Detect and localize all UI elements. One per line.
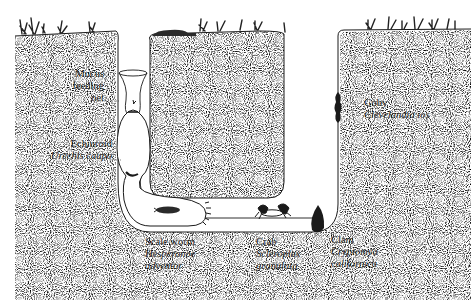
label-mucus-feeding-net: Mucus feeding net bbox=[72, 68, 104, 104]
mucus-net-icon bbox=[119, 70, 147, 114]
label-scale-worm: Scale worm Hesperonoe adventor bbox=[145, 236, 195, 272]
label-clam: Clam Cryptomya californica bbox=[331, 234, 378, 270]
goby-fish-icon bbox=[335, 92, 342, 123]
clam-icon bbox=[311, 205, 324, 233]
label-crab: Crab Scleroplax granulata bbox=[256, 236, 301, 272]
label-echiuroid: Echiuroid Urechis caupo bbox=[40, 138, 112, 162]
crab-icon bbox=[255, 204, 291, 219]
label-goby: Goby Clevelandia ios bbox=[364, 97, 430, 121]
